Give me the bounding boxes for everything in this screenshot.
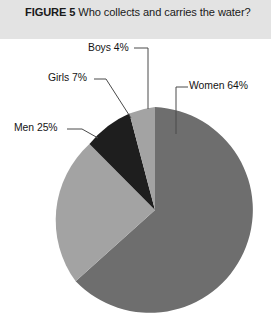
figure-number: FIGURE 5 — [25, 6, 75, 18]
pie-label-boys: Boys 4% — [88, 42, 129, 54]
leader-line-girls — [94, 79, 131, 118]
figure-panel: FIGURE 5 Who collects and carries the wa… — [0, 0, 271, 331]
pie-label-girls: Girls 7% — [48, 72, 87, 84]
pie-label-women: Women 64% — [189, 80, 248, 92]
figure-caption: FIGURE 5 Who collects and carries the wa… — [25, 5, 263, 21]
pie-chart: Boys 4% Girls 7% Men 25% Women 64% — [0, 39, 271, 331]
figure-title: Who collects and carries the water? — [78, 6, 250, 18]
pie-label-men: Men 25% — [14, 122, 58, 134]
caption-band: FIGURE 5 Who collects and carries the wa… — [0, 0, 271, 39]
leader-line-boys — [134, 48, 148, 109]
leader-line-men — [67, 129, 98, 138]
